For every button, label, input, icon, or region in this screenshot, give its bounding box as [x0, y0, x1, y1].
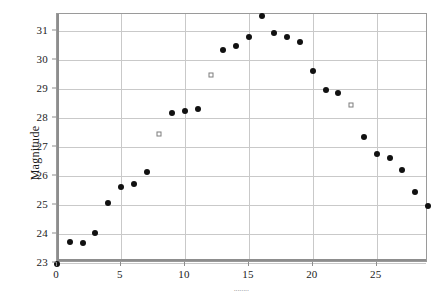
data-point: [361, 134, 367, 140]
data-point: [208, 72, 213, 77]
y-tick-label-31: 31: [37, 24, 48, 36]
y-axis-title: Magnitude: [28, 125, 43, 180]
x-tick-label-15: 15: [242, 268, 253, 280]
x-tick-label-10: 10: [178, 268, 189, 280]
data-point: [259, 13, 265, 19]
gridline-x-25: [377, 14, 378, 261]
data-point: [271, 30, 277, 36]
gridline-y-30: [57, 60, 426, 61]
data-point: [80, 240, 86, 246]
gridline-x-10: [185, 14, 186, 261]
data-point: [323, 87, 329, 93]
y-tick-label-23: 23: [37, 256, 48, 268]
gridline-y-27: [57, 147, 426, 148]
scatter-chart-figure: 2324252627282930310510152025 Magnitude .…: [0, 0, 448, 305]
y-tick-label-28: 28: [37, 111, 48, 123]
data-point: [67, 239, 73, 245]
data-point: [387, 155, 393, 161]
data-point: [297, 39, 303, 45]
y-tick-label-25: 25: [37, 198, 48, 210]
gridline-y-26: [57, 176, 426, 177]
data-point: [310, 68, 316, 74]
gridline-y-23: [57, 263, 426, 264]
gridline-y-24: [57, 234, 426, 235]
data-point: [284, 34, 290, 40]
data-point: [92, 230, 98, 236]
plot-area: [56, 13, 427, 262]
data-point: [157, 132, 162, 137]
data-point: [195, 106, 201, 112]
x-axis-title: ........: [56, 286, 427, 292]
y-axis-line: [57, 14, 59, 261]
gridline-y-29: [57, 89, 426, 90]
x-axis-line: [57, 259, 426, 261]
data-point: [425, 203, 431, 209]
data-point: [144, 169, 150, 175]
x-tick-label-5: 5: [117, 268, 123, 280]
data-point: [220, 47, 226, 53]
data-point: [169, 110, 175, 116]
data-point: [374, 151, 380, 157]
gridline-y-28: [57, 118, 426, 119]
data-point: [233, 43, 239, 49]
gridline-y-31: [57, 31, 426, 32]
gridline-y-25: [57, 205, 426, 206]
x-tick-label-25: 25: [370, 268, 381, 280]
data-point: [246, 34, 252, 40]
data-point: [54, 261, 60, 267]
gridline-x-15: [249, 14, 250, 261]
data-point: [349, 103, 354, 108]
data-point: [412, 189, 418, 195]
x-tick-label-20: 20: [306, 268, 317, 280]
y-tick-label-30: 30: [37, 53, 48, 65]
x-tick-label-0: 0: [53, 268, 59, 280]
data-point: [182, 108, 188, 114]
gridline-x-5: [121, 14, 122, 261]
gridline-x-20: [313, 14, 314, 261]
data-point: [131, 181, 137, 187]
y-tick-label-24: 24: [37, 227, 48, 239]
data-point: [399, 167, 405, 173]
y-tick-label-29: 29: [37, 82, 48, 94]
data-point: [105, 200, 111, 206]
data-point: [118, 184, 124, 190]
data-point: [335, 90, 341, 96]
